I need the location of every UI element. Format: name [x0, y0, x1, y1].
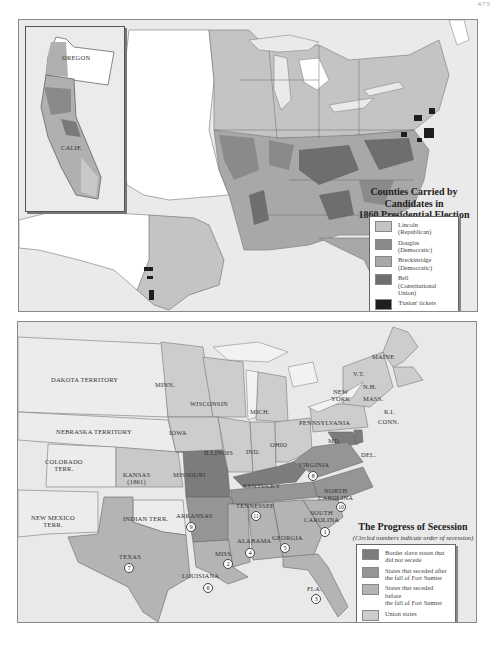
legend-item-breckinridge: Breckinridge(Democratic) [375, 256, 453, 271]
secession-order-louisiana: 6 [203, 583, 213, 593]
secession-order-georgia: 5 [280, 543, 290, 553]
legend-sublabel: (Democratic) [398, 264, 432, 271]
secession-order-south-carolina: 1 [320, 527, 330, 537]
map-label-iowa: IOWA [169, 430, 187, 437]
legend-label: Border slave states that [385, 549, 444, 556]
legend-item-fusion: 'Fusion' tickets [375, 299, 453, 310]
map-label-south-carolina-line2: CAROLINA [304, 516, 339, 523]
secession-order-miss: 2 [223, 559, 233, 569]
legend-label: Breckinridge [398, 256, 431, 263]
map-label-north-carolina: NORTHCAROLINA [318, 488, 353, 502]
map-label-vt: V.T. [353, 371, 364, 378]
election-1860-map: OREGON CALIF. Counties Carried by Candid… [18, 19, 478, 312]
map-label-nebraska: NEBRASKA TERRITORY [56, 429, 132, 436]
map-label-kansas: KANSAS(1861) [123, 472, 150, 486]
map-label-nh: N.H. [363, 384, 376, 391]
map-label-missouri: MISSOURI [173, 472, 206, 479]
map-label-colorado-line2: TERR. [54, 465, 73, 472]
map-label-arkansas: ARKANSAS [176, 513, 213, 520]
page-number: 475 [478, 0, 492, 8]
map-label-kentucky: KENTUCKY [243, 483, 280, 490]
legend-sublabel: (Republican) [398, 228, 431, 235]
pacific-coast-inset: OREGON CALIF. [25, 26, 125, 212]
legend-item-union-states: Union states [362, 610, 450, 621]
legend-label: Lincoln [398, 221, 418, 228]
legend-item-lincoln: Lincoln(Republican) [375, 221, 453, 236]
legend-item-douglas: Douglas(Democratic) [375, 239, 453, 254]
map-label-colorado: COLORADOTERR. [45, 459, 83, 473]
legend-item-seceded-after-sumter: States that seceded afterthe fall of For… [362, 567, 450, 582]
legend-sublabel: (Constitutional Union) [398, 282, 436, 296]
map-label-indian-terr: INDIAN TERR. [123, 516, 168, 523]
map-label-new-mexico-line2: TERR. [43, 521, 62, 528]
secession-legend: Border slave states thatdid not secede S… [356, 544, 456, 623]
map-label-virginia: VIRGINIA [298, 462, 329, 469]
map-label-calif: CALIF. [61, 145, 82, 152]
legend-swatch-seceded-after [362, 567, 379, 578]
map-label-texas: TEXAS [119, 554, 141, 561]
map-label-louisiana: LOUISIANA [182, 573, 219, 580]
map-label-tennessee: TENNESSEE [236, 503, 274, 510]
map-label-wisconsin: WISCONSIN [190, 401, 228, 408]
legend-item-border-states: Border slave states thatdid not secede [362, 549, 450, 564]
legend-item-bell: Bell(Constitutional Union) [375, 274, 453, 296]
map-label-new-york: NEWYORK [331, 389, 350, 403]
secession-order-fla: 3 [311, 594, 321, 604]
secession-order-texas: 7 [124, 563, 134, 573]
legend-swatch-border-states [362, 549, 379, 560]
legend-item-seceded-before-sumter: States that seceded beforethe fall of Fo… [362, 584, 450, 606]
map-label-illinois: ILLINOIS [204, 450, 233, 457]
map-label-new-mexico: NEW MEXICOTERR. [31, 515, 75, 529]
map-label-conn: CONN. [378, 419, 399, 426]
map-label-georgia: GEORGIA [272, 535, 303, 542]
map-label-new-york-line2: YORK [331, 395, 350, 402]
secession-order-tennessee: 11 [251, 511, 261, 521]
legend-sublabel: (Democratic) [398, 246, 432, 253]
legend-sublabel: did not secede [385, 556, 422, 563]
map-label-dakota: DAKOTA TERRITORY [51, 377, 118, 384]
legend-label: 'Fusion' tickets [398, 299, 436, 306]
secession-map: DAKOTA TERRITORY NEBRASKA TERRITORY COLO… [17, 321, 477, 623]
map-label-mich: MICH. [250, 409, 270, 416]
map-label-mass: MASS. [363, 396, 383, 403]
map-label-ohio: OHIO [270, 442, 287, 449]
map-label-md: MD. [328, 438, 341, 445]
map-label-ri: R.I. [384, 409, 395, 416]
map-label-north-carolina-line2: CAROLINA [318, 494, 353, 501]
secession-order-virginia: 8 [308, 471, 318, 481]
legend-label: States that seceded after [385, 567, 447, 574]
legend-swatch-breckinridge [375, 256, 392, 267]
map-label-minn: MINN. [155, 382, 175, 389]
secession-order-north-carolina: 10 [336, 502, 346, 512]
secession-map-subtitle: (Circled numbers indicate order of seces… [347, 534, 477, 541]
map-label-maine: MAINE [372, 354, 394, 361]
election-map-title-line1: Counties Carried by Candidates in [349, 186, 478, 209]
map-label-fla: FLA. [307, 586, 322, 593]
map-label-kansas-line2: (1861) [127, 478, 146, 485]
legend-label: States that seceded before [385, 584, 433, 598]
secession-map-title: The Progress of Secession [348, 521, 477, 533]
map-label-alabama: ALABAMA [237, 538, 271, 545]
secession-order-arkansas: 9 [186, 522, 196, 532]
map-label-oregon: OREGON [62, 55, 90, 62]
legend-swatch-douglas [375, 239, 392, 250]
map-label-pennsylvania: PENNSYLVANIA [299, 420, 350, 427]
legend-swatch-union [362, 610, 379, 621]
map-label-south-carolina: SOUTHCAROLINA [304, 510, 339, 524]
secession-order-alabama: 4 [245, 548, 255, 558]
legend-label: Bell [398, 274, 409, 281]
election-legend: Lincoln(Republican) Douglas(Democratic) … [369, 216, 459, 312]
legend-label: Douglas [398, 239, 419, 246]
legend-label: Union states [385, 610, 417, 617]
legend-swatch-fusion [375, 299, 392, 310]
legend-swatch-seceded-before [362, 584, 379, 595]
legend-swatch-lincoln [375, 221, 392, 232]
legend-swatch-bell [375, 274, 392, 285]
map-label-ind: IND. [246, 449, 260, 456]
legend-sublabel: the fall of Fort Sumter [385, 599, 442, 606]
map-label-del: DEL. [361, 452, 376, 459]
map-label-miss: MISS. [215, 551, 233, 558]
legend-sublabel: the fall of Fort Sumter [385, 574, 442, 581]
